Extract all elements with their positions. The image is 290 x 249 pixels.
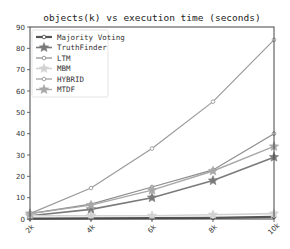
star-marker-icon — [208, 176, 218, 185]
star-marker-icon — [147, 193, 157, 202]
x-tick-label: 4k — [85, 222, 97, 234]
legend-label: MBM — [57, 64, 71, 73]
circle-marker-icon — [89, 186, 93, 190]
legend-label: TruthFinder — [57, 43, 107, 52]
y-tick-label: 10 — [16, 194, 25, 202]
line-chart: objects(k) vs execution time (seconds) 0… — [0, 0, 290, 249]
circle-marker-icon — [211, 100, 215, 104]
x-axis: 2k4k6k8k10k — [24, 219, 282, 236]
circle-marker-icon — [42, 77, 46, 81]
y-tick-label: 40 — [16, 130, 25, 138]
chart-title: objects(k) vs execution time (seconds) — [43, 12, 260, 23]
series-line — [30, 146, 274, 213]
legend-label: HYBRID — [57, 75, 85, 84]
x-tick-label: 6k — [146, 222, 158, 234]
y-tick-label: 70 — [16, 66, 25, 74]
legend-label: Majority Voting — [57, 33, 125, 42]
y-tick-label: 20 — [16, 173, 25, 181]
x-tick-label: 8k — [207, 222, 219, 234]
y-tick-label: 50 — [16, 109, 25, 117]
circle-marker-icon — [42, 56, 46, 60]
legend-label: LTM — [57, 54, 71, 63]
x-tick-label: 10k — [267, 221, 282, 236]
legend-label: MTDF — [57, 85, 76, 94]
y-tick-label: 30 — [16, 152, 25, 160]
circle-marker-icon — [150, 147, 154, 151]
y-tick-label: 0 — [21, 216, 25, 224]
circle-marker-icon — [42, 35, 46, 39]
series-ltm — [28, 132, 276, 216]
x-tick-label: 2k — [24, 222, 36, 234]
y-axis: 0102030405060708090 — [16, 24, 30, 224]
y-tick-label: 80 — [16, 45, 25, 53]
y-tick-label: 60 — [16, 88, 25, 96]
legend: Majority VotingTruthFinderLTMMBMHYBRIDMT… — [32, 30, 125, 97]
series-line — [30, 134, 274, 214]
y-tick-label: 90 — [16, 24, 25, 32]
